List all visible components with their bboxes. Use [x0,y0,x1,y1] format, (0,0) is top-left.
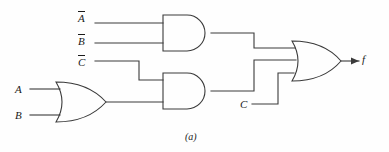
wire-and-top-to-or-out [211,33,295,48]
logic-circuit-svg [0,0,389,152]
output-label-f: f [362,54,365,65]
input-label-not-a: A [78,11,85,24]
gate-and-lower [163,73,205,109]
input-label-c: C [240,99,247,110]
input-label-a: A [15,84,22,95]
wire-c-to-or-out [252,73,294,104]
input-label-not-c: C [78,55,85,68]
figure-container: A B C A B C f (a) [0,0,389,152]
wire-and-lower-to-or-out [211,60,296,91]
output-arrowhead-icon [351,58,359,65]
input-label-not-b: B [78,34,85,47]
gate-or-out [292,41,341,81]
wire-notc-to-and-lower [95,61,163,80]
input-label-b: B [15,110,22,121]
figure-caption: (a) [185,131,197,142]
gate-or-left [56,82,106,122]
gate-and-top [163,15,205,51]
